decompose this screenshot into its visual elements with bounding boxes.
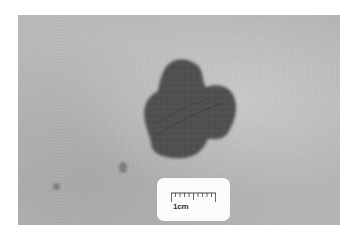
small-spot [53, 183, 60, 190]
scale-label: 1cm [173, 202, 188, 211]
ruler-icon [171, 192, 216, 202]
small-spot [119, 162, 127, 173]
scale-card: 1cm [157, 178, 230, 221]
clinical-photo: 1cm [18, 15, 340, 225]
